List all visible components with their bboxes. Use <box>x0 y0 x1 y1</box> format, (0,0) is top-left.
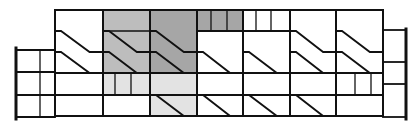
stair-flight <box>336 52 383 73</box>
stair-flight <box>55 52 103 73</box>
stair-flight <box>243 52 290 73</box>
stair-flight <box>197 95 243 116</box>
stair-flight <box>243 95 290 116</box>
building-section-diagram <box>0 0 419 125</box>
shaded-cell-col4-top <box>197 10 243 31</box>
stair-flight <box>290 95 336 116</box>
stair-flight <box>290 52 336 73</box>
wing-outlines <box>16 29 406 119</box>
shaded-cell-col2-row4 <box>103 73 150 95</box>
stair-flight <box>197 52 243 73</box>
shaded-cell-col2-upper <box>103 10 150 73</box>
stair-flight <box>290 31 336 52</box>
shaded-cell-col3-upper <box>150 10 197 73</box>
stair-flight <box>336 31 383 52</box>
stair-flight <box>55 31 103 52</box>
floor-plan-drawing <box>0 0 419 125</box>
